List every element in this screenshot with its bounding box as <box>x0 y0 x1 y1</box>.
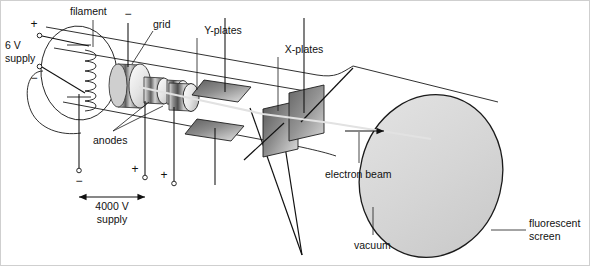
supply-6v-plus-terminal <box>37 33 42 38</box>
y-plate-upper <box>192 80 251 102</box>
grid-cup-back <box>109 64 127 107</box>
grid-leader <box>132 31 153 64</box>
label-6v-supply-line1: 6 V <box>5 39 21 51</box>
label-vacuum: vacuum <box>354 239 391 251</box>
supply-6v-plus-wire <box>42 36 89 46</box>
cathode-minus-sign: − <box>75 174 82 188</box>
label-electron-beam: electron beam <box>325 168 392 180</box>
cathode-terminal <box>77 168 82 173</box>
anode-2-plus-sign: + <box>160 168 167 182</box>
electron-gun <box>67 45 199 112</box>
supply-6v-minus-wire <box>42 67 85 93</box>
crt-diagram-canvas: + − − − + + <box>0 0 590 266</box>
supply-6v-minus-sign: − <box>30 71 37 85</box>
label-y-plates: Y-plates <box>204 24 242 36</box>
label-6v-supply-line2: supply <box>5 52 36 64</box>
label-screen-line1: fluorescent <box>529 217 580 229</box>
anode-1-plus-sign: + <box>131 162 138 176</box>
anode-2-terminal <box>172 181 177 186</box>
x-plate-far <box>289 85 324 141</box>
label-screen-line2: screen <box>529 230 561 242</box>
filament-spring-path <box>85 50 96 111</box>
label-x-plates: X-plates <box>285 43 324 55</box>
anodes-leader-a <box>113 106 163 131</box>
label-4000v-line2: supply <box>97 213 128 225</box>
anode-1-terminal <box>143 175 148 180</box>
label-grid: grid <box>153 18 171 30</box>
grid-minus-sign: − <box>124 7 131 21</box>
supply-6v-minus-terminal <box>37 64 42 69</box>
supply-6v-wiring: + − <box>30 17 89 93</box>
label-4000v-line1: 4000 V <box>95 200 128 212</box>
grid-lead: − <box>124 7 131 67</box>
crt-diagram-svg: + − − − + + <box>1 1 590 266</box>
label-anodes: anodes <box>93 134 127 146</box>
filament-coil <box>67 45 96 111</box>
label-filament: filament <box>70 5 107 17</box>
supply-6v-plus-sign: + <box>30 17 37 31</box>
